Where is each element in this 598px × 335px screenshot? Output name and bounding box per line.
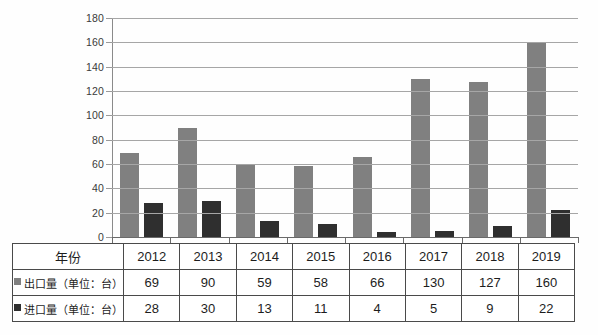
import-cell: 28 <box>124 296 180 322</box>
bar-group <box>229 18 287 237</box>
bar-import-2013 <box>202 201 221 238</box>
y-axis-tick-label: 0 <box>74 232 104 242</box>
export-cell: 130 <box>405 270 461 296</box>
gridline <box>112 140 578 141</box>
year-cell: 2015 <box>293 244 349 270</box>
y-axis-tick-label: 20 <box>74 208 104 218</box>
bar-group <box>520 18 578 237</box>
year-cell: 2016 <box>349 244 405 270</box>
bar-groups <box>112 18 578 237</box>
year-cell: 2012 <box>124 244 180 270</box>
gridline <box>112 115 578 116</box>
y-axis-tick-mark <box>106 237 112 238</box>
export-cell: 160 <box>518 270 574 296</box>
year-cell: 2014 <box>236 244 292 270</box>
bar-group <box>462 18 520 237</box>
y-axis-tick-label: 160 <box>74 37 104 47</box>
y-axis-tick-label: 140 <box>74 62 104 72</box>
gridline <box>112 213 578 214</box>
import-cell: 22 <box>518 296 574 322</box>
chart-page: 020406080100120140160180 年份 201220132014… <box>0 0 598 335</box>
import-cell: 5 <box>405 296 461 322</box>
y-axis-tick-label: 100 <box>74 110 104 120</box>
row-header-import-label: 进口量（单位：台） <box>24 304 123 316</box>
y-axis-tick-label: 180 <box>74 13 104 23</box>
table-row-year: 年份 20122013201420152016201720182019 <box>13 244 575 270</box>
y-axis-tick-label: 60 <box>74 159 104 169</box>
y-axis-tick-mark <box>106 115 112 116</box>
import-cell: 9 <box>462 296 518 322</box>
bar-import-2014 <box>260 221 279 237</box>
export-cell: 127 <box>462 270 518 296</box>
import-cell: 30 <box>180 296 236 322</box>
year-cell: 2018 <box>462 244 518 270</box>
bar-export-2015 <box>294 166 313 237</box>
gridline <box>112 18 578 19</box>
y-axis-tick-label: 120 <box>74 86 104 96</box>
gridline <box>112 164 578 165</box>
y-axis-tick-mark <box>106 213 112 214</box>
row-header-export: 出口量（单位：台） <box>13 270 124 296</box>
export-cell: 69 <box>124 270 180 296</box>
y-axis-tick-mark <box>106 42 112 43</box>
bar-chart: 020406080100120140160180 <box>0 0 598 240</box>
table-row-import: 进口量（单位：台） 2830131145922 <box>13 296 575 322</box>
row-header-year: 年份 <box>13 244 124 270</box>
bar-export-2016 <box>353 157 372 237</box>
legend-swatch-import-icon <box>14 304 21 311</box>
row-header-import: 进口量（单位：台） <box>13 296 124 322</box>
bar-group <box>112 18 170 237</box>
bar-group <box>287 18 345 237</box>
gridline <box>112 42 578 43</box>
data-table: 年份 20122013201420152016201720182019 出口量（… <box>12 243 575 322</box>
bar-export-2013 <box>178 128 197 238</box>
bar-import-2015 <box>318 224 337 237</box>
y-axis-tick-mark <box>106 18 112 19</box>
y-axis-tick-mark <box>106 67 112 68</box>
y-axis-tick-mark <box>106 164 112 165</box>
legend-swatch-export-icon <box>14 278 21 285</box>
table-row-export: 出口量（单位：台） 6990595866130127160 <box>13 270 575 296</box>
export-cell: 90 <box>180 270 236 296</box>
year-cell: 2013 <box>180 244 236 270</box>
bar-export-2014 <box>236 165 255 237</box>
bar-import-2019 <box>551 210 570 237</box>
import-cell: 11 <box>293 296 349 322</box>
bar-group <box>403 18 461 237</box>
year-cell: 2017 <box>405 244 461 270</box>
year-cell: 2019 <box>518 244 574 270</box>
bar-export-2018 <box>469 82 488 237</box>
import-cell: 4 <box>349 296 405 322</box>
y-axis-tick-label: 80 <box>74 135 104 145</box>
export-cell: 59 <box>236 270 292 296</box>
bar-group <box>170 18 228 237</box>
y-axis-tick-label: 40 <box>74 183 104 193</box>
y-axis-tick-mark <box>106 140 112 141</box>
bar-import-2012 <box>144 203 163 237</box>
gridline <box>112 188 578 189</box>
y-axis-tick-mark <box>106 188 112 189</box>
x-axis-tick-mark <box>578 237 579 243</box>
export-cell: 66 <box>349 270 405 296</box>
import-cell: 13 <box>236 296 292 322</box>
bar-import-2018 <box>493 226 512 237</box>
bar-group <box>345 18 403 237</box>
y-axis-tick-mark <box>106 91 112 92</box>
gridline <box>112 67 578 68</box>
plot-area <box>112 18 578 237</box>
row-header-export-label: 出口量（单位：台） <box>24 278 123 290</box>
bar-export-2012 <box>120 153 139 237</box>
export-cell: 58 <box>293 270 349 296</box>
gridline <box>112 91 578 92</box>
y-axis-labels: 020406080100120140160180 <box>74 11 104 238</box>
